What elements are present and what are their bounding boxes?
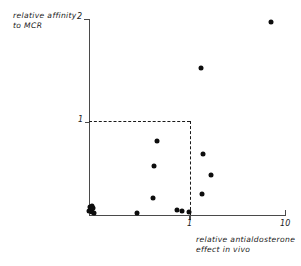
y-axis-tick-2 <box>84 19 89 20</box>
data-point <box>150 196 155 201</box>
x-tick-label-1: 1 <box>187 219 192 228</box>
data-point <box>269 19 274 24</box>
data-point <box>135 211 140 216</box>
y-tick-label-1: 1 <box>78 115 83 124</box>
x-axis-tick-10 <box>285 210 286 215</box>
data-point <box>154 138 159 143</box>
y-axis-title-line2: to MCR <box>13 21 77 31</box>
reference-line-affinity-1 <box>89 121 190 122</box>
reference-line-effect-1 <box>190 121 191 215</box>
y-tick-label-2: 2 <box>77 12 82 21</box>
y-axis-title: relative affinity to MCR <box>13 11 77 31</box>
x-axis-title-line1: relative antialdosterone <box>196 235 295 245</box>
data-point <box>199 66 204 71</box>
data-point <box>186 210 191 215</box>
data-point <box>151 164 156 169</box>
x-tick-label-10: 10 <box>280 219 291 228</box>
y-axis-title-line1: relative affinity <box>13 11 77 21</box>
x-axis-title: relative antialdosterone effect in vivo <box>196 235 295 255</box>
data-point <box>200 152 205 157</box>
data-point <box>208 172 213 177</box>
data-point <box>179 209 184 214</box>
x-axis-title-line2: effect in vivo <box>196 245 295 255</box>
y-axis-line <box>89 19 90 216</box>
data-point <box>92 211 97 216</box>
x-axis-line <box>89 215 286 216</box>
scatter-plot-figure: 2 1 1 10 relative affinity to MCR relati… <box>0 0 301 266</box>
data-point <box>199 192 204 197</box>
